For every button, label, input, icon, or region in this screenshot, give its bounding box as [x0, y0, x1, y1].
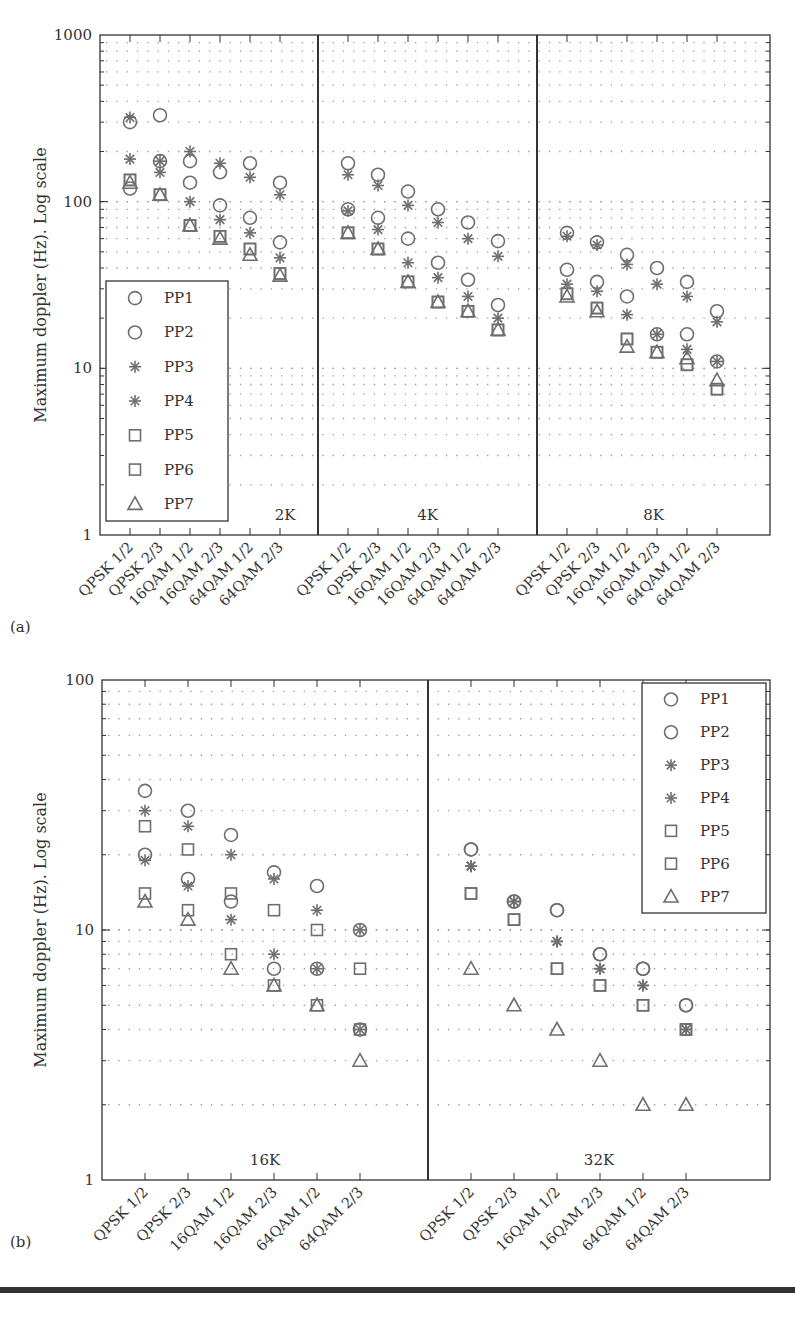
legend-item-label: PP3 [164, 358, 194, 376]
asterisk-marker-icon [621, 309, 633, 321]
circle-marker-icon [184, 176, 197, 189]
asterisk-marker-icon [651, 278, 663, 290]
square-marker-icon [552, 963, 563, 974]
circle-marker-icon [432, 256, 445, 269]
asterisk-marker-icon [681, 343, 693, 355]
legend-item-label: PP6 [700, 855, 730, 873]
square-marker-icon [638, 1000, 649, 1011]
asterisk-marker-icon [681, 290, 693, 302]
circle-marker-icon [225, 895, 238, 908]
square-marker-icon [595, 980, 606, 991]
panel-a: 1101001000Maximum doppler (Hz). Log scal… [10, 26, 770, 636]
panel-label: (b) [10, 1233, 31, 1251]
asterisk-marker-icon [139, 805, 151, 817]
legend-item-label: PP2 [700, 723, 730, 741]
group-label: 2K [275, 506, 297, 524]
asterisk-marker-icon [311, 963, 323, 975]
asterisk-marker-icon [244, 171, 256, 183]
triangle-marker-icon [550, 1022, 564, 1035]
asterisk-marker-icon [129, 395, 141, 407]
y-tick-label: 10 [75, 921, 94, 939]
circle-marker-icon [182, 804, 195, 817]
panel-b: 110100Maximum doppler (Hz). Log scale(b)… [10, 671, 770, 1254]
asterisk-marker-icon [124, 153, 136, 165]
square-marker-icon [595, 980, 606, 991]
asterisk-marker-icon [268, 873, 280, 885]
square-marker-icon [509, 914, 520, 925]
circle-marker-icon [462, 273, 475, 286]
triangle-marker-icon [353, 1054, 367, 1067]
circle-marker-icon [492, 235, 505, 248]
asterisk-marker-icon [591, 285, 603, 297]
asterisk-marker-icon [225, 914, 237, 926]
square-marker-icon [269, 905, 280, 916]
circle-marker-icon [432, 203, 445, 216]
asterisk-marker-icon [561, 230, 573, 242]
asterisk-marker-icon [184, 196, 196, 208]
asterisk-marker-icon [651, 328, 663, 340]
circle-marker-icon [372, 211, 385, 224]
square-marker-icon [312, 925, 323, 936]
asterisk-marker-icon [311, 904, 323, 916]
asterisk-marker-icon [462, 290, 474, 302]
circle-marker-icon [681, 275, 694, 288]
triangle-marker-icon [636, 1098, 650, 1111]
legend-item-label: PP5 [164, 426, 194, 444]
asterisk-marker-icon [268, 948, 280, 960]
asterisk-marker-icon [462, 233, 474, 245]
circle-marker-icon [561, 263, 574, 276]
legend-item-label: PP2 [164, 323, 194, 341]
group-label: 8K [643, 506, 665, 524]
circle-marker-icon [139, 784, 152, 797]
asterisk-marker-icon [182, 880, 194, 892]
asterisk-marker-icon [342, 169, 354, 181]
square-marker-icon [509, 914, 520, 925]
asterisk-marker-icon [680, 1023, 692, 1035]
circle-marker-icon [154, 109, 167, 122]
footer-rule [0, 1287, 795, 1293]
legend-item-label: PP7 [164, 495, 194, 513]
circle-marker-icon [342, 157, 355, 170]
asterisk-marker-icon [274, 189, 286, 201]
circle-marker-icon [462, 216, 475, 229]
circle-marker-icon [225, 828, 238, 841]
square-marker-icon [183, 844, 194, 855]
asterisk-marker-icon [225, 849, 237, 861]
chart-figure: 1101001000Maximum doppler (Hz). Log scal… [0, 0, 795, 1317]
legend-item-label: PP7 [700, 888, 730, 906]
y-tick-label: 1 [84, 1171, 94, 1189]
asterisk-marker-icon [244, 227, 256, 239]
asterisk-marker-icon [184, 145, 196, 157]
circle-marker-icon [621, 290, 634, 303]
asterisk-marker-icon [274, 252, 286, 264]
asterisk-marker-icon [621, 258, 633, 270]
circle-marker-icon [244, 211, 257, 224]
circle-marker-icon [311, 879, 324, 892]
circle-marker-icon [372, 168, 385, 181]
y-tick-label: 1000 [54, 26, 92, 44]
legend-item-label: PP4 [700, 789, 730, 807]
square-marker-icon [140, 821, 151, 832]
circle-marker-icon [402, 232, 415, 245]
square-marker-icon [226, 949, 237, 960]
asterisk-marker-icon [354, 924, 366, 936]
y-tick-label: 10 [73, 359, 92, 377]
legend-item-label: PP1 [164, 289, 194, 307]
asterisk-marker-icon [711, 355, 723, 367]
asterisk-marker-icon [124, 111, 136, 123]
asterisk-marker-icon [465, 860, 477, 872]
asterisk-marker-icon [665, 792, 677, 804]
asterisk-marker-icon [154, 166, 166, 178]
asterisk-marker-icon [214, 157, 226, 169]
asterisk-marker-icon [711, 316, 723, 328]
circle-marker-icon [492, 298, 505, 311]
asterisk-marker-icon [432, 272, 444, 284]
square-marker-icon [226, 888, 237, 899]
asterisk-marker-icon [637, 979, 649, 991]
legend-item-label: PP4 [164, 392, 194, 410]
panel-label: (a) [10, 618, 31, 636]
y-axis-label: Maximum doppler (Hz). Log scale [31, 147, 50, 422]
triangle-marker-icon [679, 1098, 693, 1111]
asterisk-marker-icon [665, 759, 677, 771]
asterisk-marker-icon [432, 216, 444, 228]
